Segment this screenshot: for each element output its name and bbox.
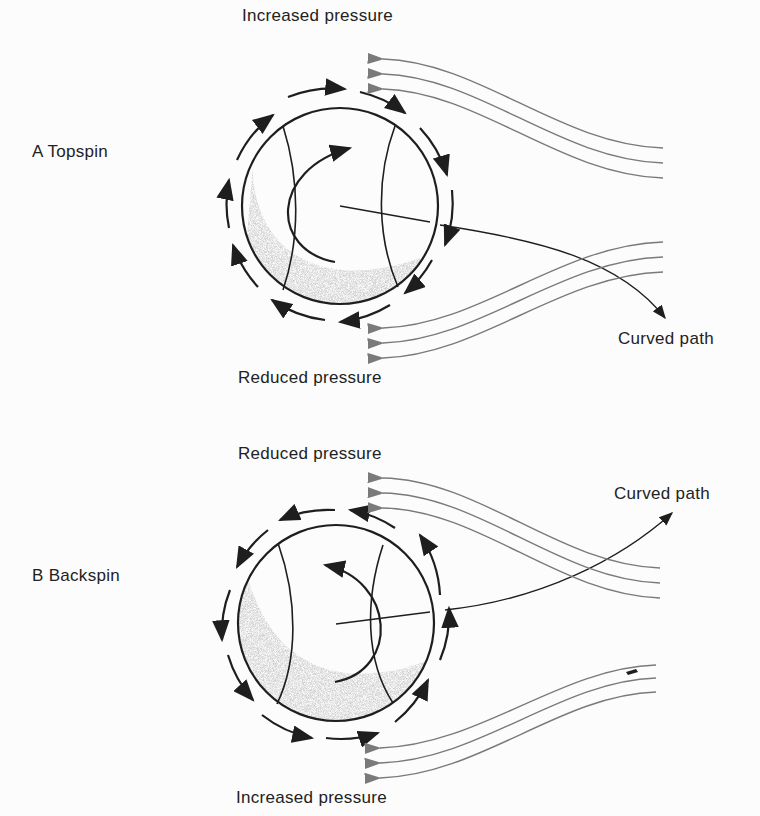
- label-reduced-pressure-b: Reduced pressure: [238, 444, 382, 464]
- label-curved-path-a: Curved path: [618, 329, 714, 349]
- label-increased-pressure-a: Increased pressure: [242, 6, 393, 26]
- label-increased-pressure-b: Increased pressure: [236, 788, 387, 808]
- label-backspin: B Backspin: [32, 566, 120, 586]
- topspin-panel: [227, 59, 665, 358]
- backspin-panel: [222, 478, 672, 778]
- label-reduced-pressure-a: Reduced pressure: [238, 368, 382, 388]
- magnus-effect-diagram: Increased pressure A Topspin Reduced pre…: [0, 0, 760, 816]
- diagram-graphics: [0, 0, 760, 816]
- label-topspin: A Topspin: [32, 142, 108, 162]
- label-curved-path-b: Curved path: [614, 484, 710, 504]
